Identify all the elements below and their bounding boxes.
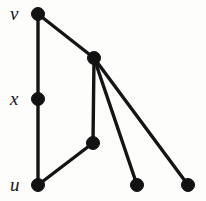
vertex-label-x: x	[10, 89, 18, 108]
graph-vertex-v	[32, 8, 45, 21]
graph-edge-v-h	[38, 14, 94, 58]
graph-vertex-u	[32, 179, 45, 192]
vertex-label-u: u	[10, 175, 20, 194]
graph-edge-h-m	[93, 58, 94, 143]
graph-canvas	[0, 0, 206, 201]
graph-vertex-x	[32, 93, 45, 106]
vertex-label-v: v	[10, 4, 18, 23]
graph-vertex-h	[88, 52, 101, 65]
graph-edge-u-m	[38, 143, 93, 185]
graph-figure: v x u	[0, 0, 206, 201]
graph-edge-h-b2	[94, 58, 188, 185]
graph-vertex-b2	[182, 179, 195, 192]
edge-layer	[38, 14, 188, 185]
graph-vertex-m	[87, 137, 100, 150]
graph-edge-h-b1	[94, 58, 137, 185]
graph-vertex-b1	[131, 179, 144, 192]
vertex-layer	[32, 8, 195, 192]
